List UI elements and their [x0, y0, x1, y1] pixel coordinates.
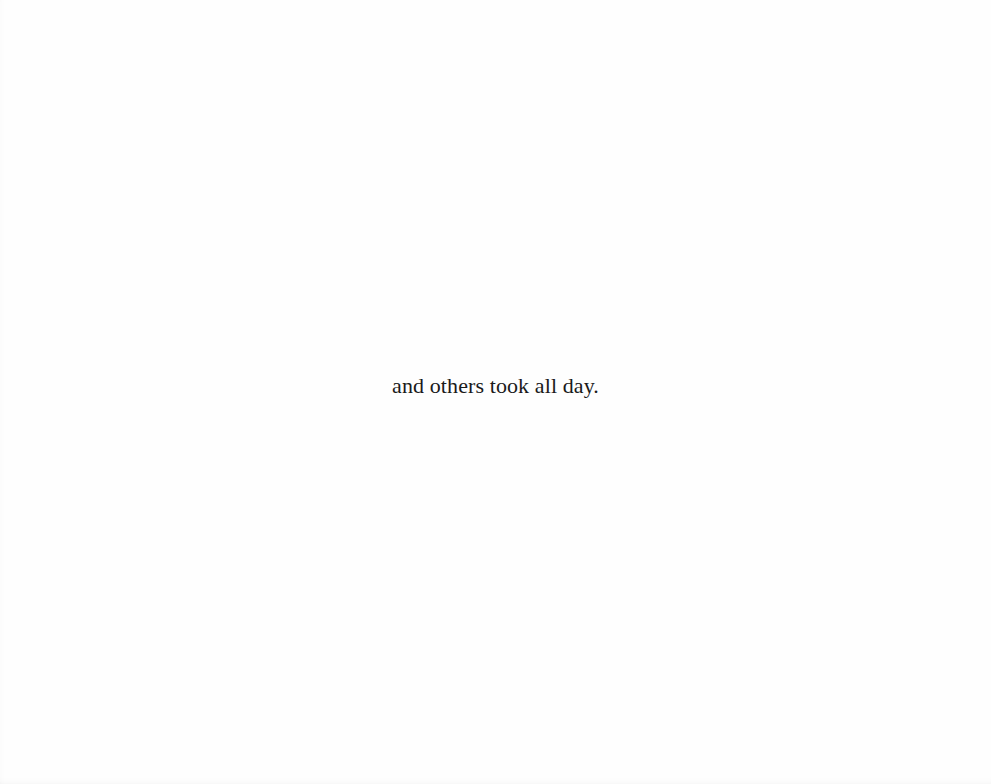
book-page: and others took all day.: [0, 0, 991, 784]
page-text-line: and others took all day.: [0, 370, 991, 402]
